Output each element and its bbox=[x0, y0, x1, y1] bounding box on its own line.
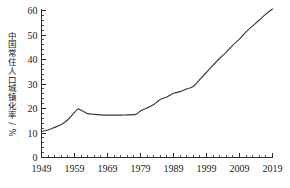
y-tick-label: 60 bbox=[28, 5, 38, 16]
axis-lines bbox=[42, 9, 273, 158]
y-axis-title-glyph: 率 bbox=[8, 110, 17, 120]
axis-ticks-minor bbox=[42, 15, 266, 157]
urbanization-rate-line bbox=[42, 9, 273, 132]
x-tick-label: 1989 bbox=[164, 163, 184, 174]
y-axis-title-glyph: / bbox=[7, 122, 17, 125]
data-series-line bbox=[42, 9, 273, 132]
y-tick-label: 50 bbox=[28, 30, 38, 41]
x-tick-label: 1949 bbox=[32, 163, 52, 174]
chart-canvas: 0102030405060 19491959196919791989199920… bbox=[0, 0, 290, 188]
y-tick-label: 40 bbox=[28, 54, 38, 65]
line-chart: 0102030405060 19491959196919791989199920… bbox=[0, 0, 290, 188]
x-tick-label: 1979 bbox=[131, 163, 151, 174]
y-axis-title: 中国常住人口城镇化率/% bbox=[7, 31, 17, 137]
x-tick-label: 1999 bbox=[197, 163, 217, 174]
x-tick-label: 1969 bbox=[98, 163, 118, 174]
y-axis-title-glyph: % bbox=[7, 128, 17, 136]
x-tick-label: 1959 bbox=[65, 163, 85, 174]
axis-ticks-major bbox=[42, 11, 273, 158]
y-tick-label: 0 bbox=[33, 152, 38, 163]
x-tick-label: 2009 bbox=[230, 163, 250, 174]
x-tick-label: 2019 bbox=[263, 163, 283, 174]
y-tick-label: 30 bbox=[28, 79, 38, 90]
axis-spines bbox=[42, 9, 273, 158]
y-tick-label: 10 bbox=[28, 128, 38, 139]
y-tick-label: 20 bbox=[28, 103, 38, 114]
x-axis-tick-labels: 19491959196919791989199920092019 bbox=[32, 163, 283, 174]
y-axis-tick-labels: 0102030405060 bbox=[28, 5, 38, 163]
